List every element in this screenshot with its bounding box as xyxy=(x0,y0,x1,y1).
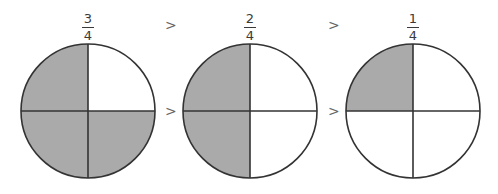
denominator: 4 xyxy=(73,29,103,43)
greater-than-symbol-top-2: > xyxy=(328,18,340,32)
fraction-circle-2-4 xyxy=(183,44,317,178)
numerator: 2 xyxy=(235,12,265,26)
greater-than-symbol-mid-1: > xyxy=(165,104,177,118)
numerator: 1 xyxy=(398,12,428,26)
fraction-label-3: 1 4 xyxy=(398,12,428,43)
denominator: 4 xyxy=(235,29,265,43)
fraction-circle-1-4 xyxy=(346,44,480,178)
fraction-label-1: 3 4 xyxy=(73,12,103,43)
numerator: 3 xyxy=(73,12,103,26)
greater-than-symbol-top-1: > xyxy=(165,18,177,32)
denominator: 4 xyxy=(398,29,428,43)
fraction-circle-3-4 xyxy=(21,44,155,178)
greater-than-symbol-mid-2: > xyxy=(328,104,340,118)
fraction-label-2: 2 4 xyxy=(235,12,265,43)
